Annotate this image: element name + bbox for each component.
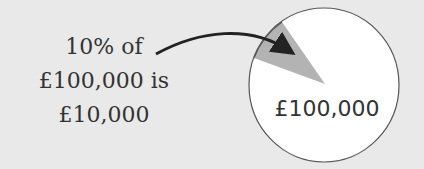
pie-total-label: £100,000 — [252, 96, 402, 121]
pie-diagram — [0, 0, 424, 169]
